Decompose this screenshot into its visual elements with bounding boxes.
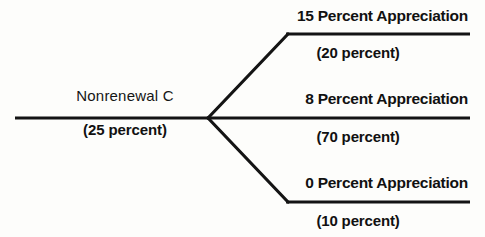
branch-label-top: 15 Percent Appreciation xyxy=(297,8,468,24)
root-node-label: Nonrenewal C xyxy=(50,88,200,103)
branch-probability-top: (20 percent) xyxy=(248,45,468,60)
root-node-probability: (25 percent) xyxy=(50,122,200,137)
branch-probability-middle: (70 percent) xyxy=(248,129,468,144)
branch-probability-bottom: (10 percent) xyxy=(248,213,468,228)
branch-label-middle: 8 Percent Appreciation xyxy=(305,91,468,107)
decision-tree-diagram: Nonrenewal C (25 percent) 15 Percent App… xyxy=(0,0,485,237)
tree-branch-lines xyxy=(0,0,485,237)
branch-label-bottom: 0 Percent Appreciation xyxy=(305,175,468,191)
